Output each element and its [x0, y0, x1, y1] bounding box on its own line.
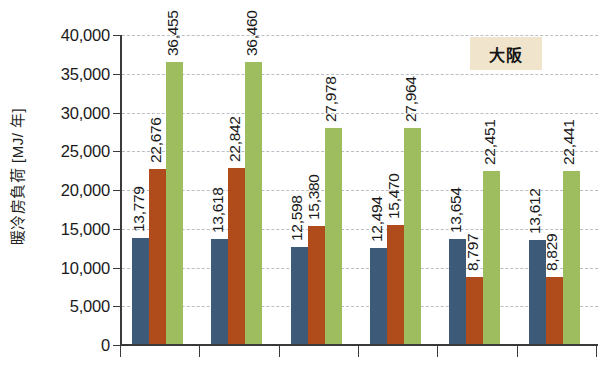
bar: 27,978	[325, 128, 342, 345]
x-axis-tick	[120, 344, 121, 357]
bar-value-label: 15,470	[385, 174, 403, 220]
x-axis-tick	[437, 344, 438, 357]
bar: 13,779	[132, 238, 149, 345]
plot-area: 13,77922,67636,45513,61822,84236,46012,5…	[120, 35, 598, 345]
y-axis-tick-label: 40,000	[61, 26, 110, 45]
bar-value-label: 8,797	[464, 234, 482, 271]
x-axis-tick	[279, 344, 280, 357]
x-axis-tick	[199, 344, 200, 357]
bar: 13,654	[449, 239, 466, 345]
bar-value-label: 8,829	[543, 233, 561, 270]
x-axis-ticks	[120, 344, 598, 358]
y-axis-tick-labels: 05,00010,00015,00020,00025,00030,00035,0…	[30, 0, 116, 379]
y-axis-tick-label: 0	[101, 336, 110, 355]
y-axis-tick-label: 35,000	[61, 64, 110, 83]
bar: 8,797	[466, 277, 483, 345]
y-axis-tick-label: 25,000	[61, 142, 110, 161]
bar: 36,455	[166, 62, 183, 345]
bar-value-label: 13,779	[130, 187, 148, 233]
bar: 13,612	[529, 240, 546, 345]
y-axis-tick-label: 20,000	[61, 181, 110, 200]
bar-group: 13,6548,79722,451	[439, 35, 518, 345]
bars-layer: 13,77922,67636,45513,61822,84236,46012,5…	[122, 35, 598, 345]
bar: 22,441	[563, 171, 580, 345]
bar-value-label: 36,460	[243, 11, 261, 57]
bar-group: 13,61822,84236,460	[201, 35, 280, 345]
bar-value-label: 12,494	[368, 197, 386, 243]
x-axis-tick	[596, 344, 597, 357]
y-axis-tick-label: 15,000	[61, 219, 110, 238]
bar: 22,842	[228, 168, 245, 345]
bar: 13,618	[211, 239, 228, 345]
bar-value-label: 13,654	[447, 188, 465, 234]
y-axis-tick-label: 30,000	[61, 103, 110, 122]
bar-value-label: 12,598	[288, 196, 306, 242]
bar: 8,829	[546, 277, 563, 345]
x-axis-tick	[517, 344, 518, 357]
bar-value-label: 22,842	[226, 116, 244, 162]
bar: 22,676	[149, 169, 166, 345]
bar-value-label: 22,676	[147, 118, 165, 164]
y-axis-title-text: 暖冷房負荷 [MJ/ 年]	[7, 107, 28, 244]
y-axis-tick-label: 5,000	[70, 297, 110, 316]
y-axis-tick-label: 10,000	[61, 258, 110, 277]
bar: 15,380	[308, 226, 325, 345]
bar-value-label: 36,455	[164, 11, 182, 57]
bar-chart: 暖冷房負荷 [MJ/ 年] 05,00010,00015,00020,00025…	[0, 0, 604, 379]
bar-group: 12,59815,38027,978	[281, 35, 360, 345]
bar-value-label: 27,964	[402, 77, 420, 123]
bar: 15,470	[387, 225, 404, 345]
bar-group: 13,6128,82922,441	[519, 35, 598, 345]
bar-group: 12,49415,47027,964	[360, 35, 439, 345]
x-axis-tick	[358, 344, 359, 357]
bar-group: 13,77922,67636,455	[122, 35, 201, 345]
bar: 12,494	[370, 248, 387, 345]
bar-value-label: 27,978	[322, 77, 340, 123]
bar-value-label: 22,451	[481, 119, 499, 165]
region-label: 大阪	[470, 37, 542, 70]
bar: 12,598	[291, 247, 308, 345]
bar-value-label: 13,618	[209, 188, 227, 234]
bar: 36,460	[245, 62, 262, 345]
bar: 22,451	[483, 171, 500, 345]
bar: 27,964	[404, 128, 421, 345]
bar-value-label: 15,380	[305, 174, 323, 220]
y-axis-title: 暖冷房負荷 [MJ/ 年]	[0, 0, 34, 352]
bar-value-label: 22,441	[560, 119, 578, 165]
bar-value-label: 13,612	[526, 188, 544, 234]
